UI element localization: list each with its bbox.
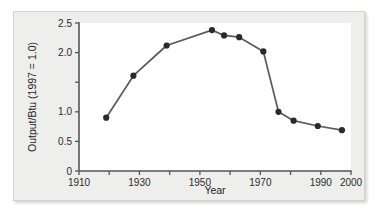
data-point [260, 48, 266, 54]
figure-frame: 00.51.02.02.5191019301950197019902000 Ye… [13, 11, 365, 201]
axes [75, 23, 351, 175]
series-line [106, 30, 342, 130]
x-tick-label: 1910 [68, 177, 91, 188]
line-chart: 00.51.02.02.5191019301950197019902000 Ye… [14, 12, 366, 202]
y-tick-label: 0 [66, 166, 72, 177]
data-point [315, 123, 321, 129]
y-tick-label: 1.0 [58, 106, 72, 117]
data-point [339, 127, 345, 133]
y-tick-label: 2.5 [58, 18, 72, 29]
x-tick-label: 2000 [340, 177, 363, 188]
x-tick-label: 1930 [128, 177, 151, 188]
y-tick-label: 0.5 [58, 136, 72, 147]
data-point [290, 118, 296, 124]
data-point [130, 73, 136, 79]
x-axis-title: Year [204, 184, 226, 196]
x-tick-label: 1970 [249, 177, 272, 188]
data-point [236, 34, 242, 40]
data-point [221, 32, 227, 38]
data-point [103, 115, 109, 121]
data-point [209, 27, 215, 33]
data-point [164, 42, 170, 48]
y-tick-label: 2.0 [58, 47, 72, 58]
y-axis-title: Output/Btu (1997 = 1.0) [26, 42, 38, 152]
data-series [103, 27, 345, 133]
data-point [275, 109, 281, 115]
tick-labels: 00.51.02.02.5191019301950197019902000 [58, 18, 362, 189]
x-tick-label: 1990 [310, 177, 333, 188]
